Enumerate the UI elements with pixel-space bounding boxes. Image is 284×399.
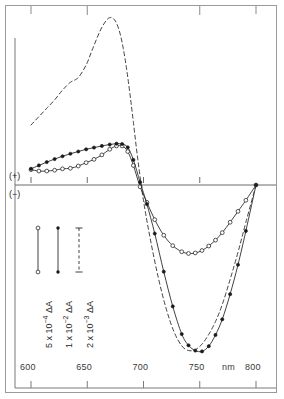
data-point-open-circle bbox=[100, 153, 104, 157]
data-point-open-circle bbox=[45, 169, 49, 173]
data-point-open-circle bbox=[200, 249, 204, 253]
data-point-filled-circle bbox=[162, 270, 165, 273]
data-point-filled-circle bbox=[236, 263, 239, 266]
data-point-filled-circle bbox=[100, 144, 103, 147]
axes-group bbox=[15, 6, 276, 388]
legend-marker-0 bbox=[36, 226, 40, 274]
figure-container: (+) (−) 600650700750800 nm 5 x 10−4 ΔA1 … bbox=[0, 0, 284, 399]
x-tick-label-700: 700 bbox=[133, 362, 149, 372]
axis-label-negative: (−) bbox=[9, 189, 20, 199]
data-point-open-circle bbox=[187, 252, 191, 256]
data-point-open-circle bbox=[236, 209, 240, 213]
data-point-open-circle bbox=[108, 147, 112, 151]
data-point-filled-circle bbox=[126, 146, 129, 149]
x-tick-label-600: 600 bbox=[20, 362, 36, 372]
data-point-filled-circle bbox=[115, 142, 118, 145]
data-point-open-circle bbox=[162, 233, 166, 237]
x-tick-label-650: 650 bbox=[76, 362, 92, 372]
data-point-open-circle bbox=[84, 161, 88, 165]
data-point-filled-circle bbox=[85, 148, 88, 151]
data-point-filled-circle bbox=[45, 161, 48, 164]
data-point-open-circle bbox=[193, 251, 197, 255]
data-point-open-circle bbox=[37, 169, 41, 173]
x-tick-label-800: 800 bbox=[245, 362, 261, 372]
data-point-filled-circle bbox=[121, 142, 124, 145]
data-point-open-circle bbox=[171, 244, 175, 248]
data-point-filled-circle bbox=[37, 164, 40, 167]
data-point-open-circle bbox=[92, 157, 96, 161]
data-point-filled-circle bbox=[244, 229, 247, 232]
legend-marker-1 bbox=[56, 226, 59, 273]
data-point-filled-circle bbox=[214, 333, 217, 336]
data-point-open-circle bbox=[207, 244, 211, 248]
data-point-open-circle bbox=[228, 220, 232, 224]
data-point-filled-circle bbox=[229, 293, 232, 296]
data-point-filled-circle bbox=[200, 350, 203, 353]
data-point-open-circle bbox=[76, 164, 80, 168]
data-point-filled-circle bbox=[171, 305, 174, 308]
data-point-filled-circle bbox=[221, 318, 224, 321]
legend-marker-2 bbox=[76, 228, 83, 272]
axis-label-positive: (+) bbox=[9, 171, 20, 181]
legend-label-2: 2 x 10−3 ΔA bbox=[83, 301, 95, 348]
data-point-open-circle bbox=[53, 168, 57, 172]
data-point-open-circle bbox=[180, 250, 184, 254]
x-tick-label-750: 750 bbox=[189, 362, 205, 372]
data-point-filled-circle bbox=[29, 167, 32, 170]
data-point-filled-circle bbox=[145, 202, 148, 205]
data-point-filled-circle bbox=[53, 157, 56, 160]
data-point-filled-circle bbox=[132, 158, 135, 161]
data-point-filled-circle bbox=[139, 181, 142, 184]
data-point-filled-circle bbox=[207, 345, 210, 348]
data-point-filled-circle bbox=[61, 155, 64, 158]
legend-label-0: 5 x 10−4 ΔA bbox=[42, 301, 54, 348]
data-point-filled-circle bbox=[108, 143, 111, 146]
data-point-filled-circle bbox=[69, 152, 72, 155]
legend-marker-group bbox=[36, 226, 82, 274]
legend-label-1: 1 x 10−2 ΔA bbox=[62, 301, 74, 348]
data-point-filled-circle bbox=[77, 150, 80, 153]
data-point-open-circle bbox=[214, 238, 218, 242]
data-point-open-circle bbox=[153, 218, 157, 222]
data-point-filled-circle bbox=[187, 344, 190, 347]
data-point-open-circle bbox=[244, 198, 248, 202]
data-point-filled-circle bbox=[92, 146, 95, 149]
data-point-filled-circle bbox=[153, 232, 156, 235]
data-point-open-circle bbox=[61, 167, 65, 171]
data-point-open-circle bbox=[68, 166, 72, 170]
x-axis-unit-label: nm bbox=[222, 362, 235, 372]
data-point-filled-circle bbox=[180, 332, 183, 335]
data-point-open-circle bbox=[220, 231, 224, 235]
